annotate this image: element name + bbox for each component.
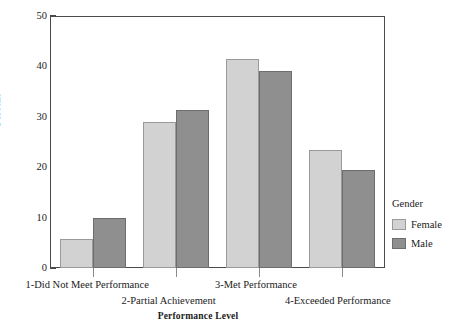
bar-male-group-3 xyxy=(259,71,292,268)
x-category-label-1: 1-Did Not Meet Performance xyxy=(26,278,149,291)
legend-label-female: Female xyxy=(411,219,442,230)
legend: Gender FemaleMale xyxy=(392,198,452,257)
y-tick-label: 50 xyxy=(37,9,48,23)
y-tick-label: 0 xyxy=(42,261,47,275)
x-category-label-2: 2-Partial Achievement xyxy=(122,294,216,307)
bar-female-group-3 xyxy=(226,59,259,268)
bar-male-group-1 xyxy=(93,218,126,268)
y-tick-label: 30 xyxy=(37,110,48,124)
bars-container xyxy=(52,16,384,268)
legend-swatch-male xyxy=(392,238,406,249)
x-category-label-4: 4-Exceeded Performance xyxy=(285,294,391,307)
legend-swatch-female xyxy=(392,219,406,230)
bar-male-group-4 xyxy=(342,170,375,268)
y-axis-title: Percent xyxy=(0,70,2,150)
bar-female-group-1 xyxy=(60,239,93,268)
legend-title: Gender xyxy=(392,198,452,209)
bar-male-group-2 xyxy=(176,110,209,268)
legend-entry-female: Female xyxy=(392,219,452,230)
bar-chart: Percent 01020304050 1-Did Not Meet Perfo… xyxy=(0,0,452,328)
x-axis-tick xyxy=(93,268,94,277)
legend-entry-male: Male xyxy=(392,238,452,249)
y-tick-label: 20 xyxy=(37,160,48,174)
x-axis-tick xyxy=(342,268,343,277)
legend-label-male: Male xyxy=(411,238,433,249)
bar-female-group-2 xyxy=(143,122,176,268)
x-axis-tick xyxy=(176,268,177,277)
y-tick-label: 40 xyxy=(37,59,48,73)
x-axis-tick xyxy=(259,268,260,277)
legend-entries: FemaleMale xyxy=(392,219,452,249)
bar-female-group-4 xyxy=(309,150,342,268)
y-tick-label: 10 xyxy=(37,211,48,225)
x-axis-title: Performance Level xyxy=(0,311,396,321)
x-category-label-3: 3-Met Performance xyxy=(215,278,297,291)
